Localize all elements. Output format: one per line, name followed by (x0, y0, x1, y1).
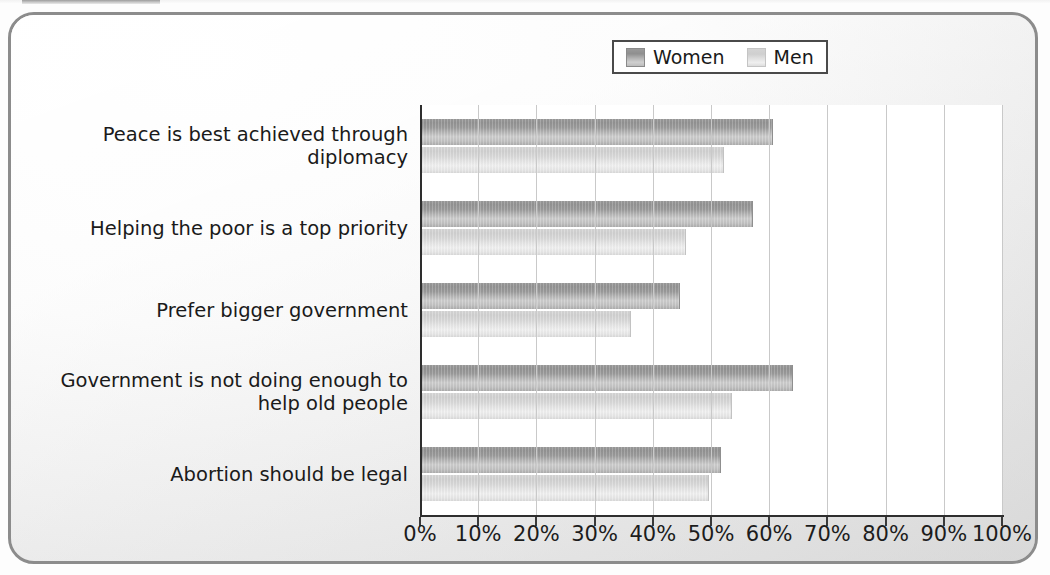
chart-legend: WomenMen (612, 40, 828, 74)
x-axis-tick-label: 20% (513, 522, 560, 546)
bar-men-group-4 (420, 475, 709, 501)
legend-label: Women (653, 48, 725, 67)
plot-area-wrapper (412, 105, 1004, 515)
category-axis-labels: Peace is best achieved through diplomacy… (0, 105, 408, 515)
gridline (944, 105, 945, 515)
bar-women-group-0 (420, 119, 773, 145)
category-label: Abortion should be legal (8, 463, 408, 486)
x-axis-tick-label: 10% (455, 522, 502, 546)
category-label: Prefer bigger government (8, 299, 408, 322)
bar-women-group-1 (420, 201, 753, 227)
bar-men-group-0 (420, 147, 724, 173)
x-axis-tick-label: 60% (746, 522, 793, 546)
chart-screenshot: WomenMen Peace is best achieved through … (0, 0, 1050, 575)
gridline (711, 105, 712, 515)
legend-entry-women: Women (626, 48, 725, 67)
gridline (1002, 105, 1003, 515)
x-axis-tick-label: 0% (403, 522, 436, 546)
women-swatch-icon (626, 48, 645, 67)
bar-men-group-3 (420, 393, 732, 419)
x-axis-tick-label: 80% (862, 522, 909, 546)
x-axis-line (420, 515, 1004, 517)
category-label: Peace is best achieved through diplomacy (8, 123, 408, 169)
y-axis-line (420, 105, 422, 517)
gridline (536, 105, 537, 515)
category-label: Helping the poor is a top priority (8, 217, 408, 240)
x-axis-tick-label: 100% (972, 522, 1032, 546)
bar-men-group-1 (420, 229, 686, 255)
bar-women-group-3 (420, 365, 793, 391)
gridline (478, 105, 479, 515)
x-axis-tick-label: 90% (920, 522, 967, 546)
x-axis-tick-label: 40% (629, 522, 676, 546)
category-label: Government is not doing enough to help o… (8, 369, 408, 415)
gridline (595, 105, 596, 515)
x-axis-tick-label: 30% (571, 522, 618, 546)
gridline (886, 105, 887, 515)
legend-entry-men: Men (747, 48, 814, 67)
gridline (769, 105, 770, 515)
men-swatch-icon (747, 48, 766, 67)
x-axis-tick-label: 50% (688, 522, 735, 546)
legend-label: Men (774, 48, 814, 67)
gridline (653, 105, 654, 515)
x-axis-tick-label: 70% (804, 522, 851, 546)
bar-men-group-2 (420, 311, 631, 337)
top-edge-artifact (22, 0, 160, 4)
gridline (827, 105, 828, 515)
bar-women-group-2 (420, 283, 680, 309)
bar-women-group-4 (420, 447, 721, 473)
